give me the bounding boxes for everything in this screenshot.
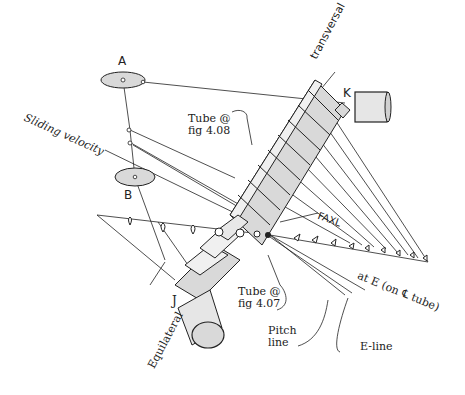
label-k: K <box>343 88 351 99</box>
right-pointers <box>294 234 427 261</box>
tube-408-leader <box>232 110 252 145</box>
label-e-line: E-line <box>360 341 393 352</box>
point-e <box>265 232 271 238</box>
label-j: J <box>172 296 177 307</box>
j-cylinder <box>178 290 224 348</box>
label-tube-407-line1: Tube @ <box>238 286 280 297</box>
e-line-leader <box>337 298 348 352</box>
label-pitch-line2: line <box>268 337 289 348</box>
pitch-line-leader <box>298 300 328 346</box>
label-tube-408-line1: Tube @ <box>188 113 230 124</box>
e-line <box>270 237 352 293</box>
label-a: A <box>118 56 126 67</box>
joint-2 <box>128 141 132 145</box>
gear-geometry-diagram <box>0 0 465 395</box>
disc-b <box>115 168 155 186</box>
k-cylinder <box>355 92 391 122</box>
joint-1 <box>127 128 131 132</box>
label-tube-407-line2: fig 4.07 <box>238 298 280 309</box>
label-tube-408-line2: fig 4.08 <box>188 125 230 136</box>
disc-a <box>101 72 145 88</box>
b-to-j-line <box>135 178 165 260</box>
label-pitch-line1: Pitch <box>268 325 297 336</box>
label-b: B <box>124 190 132 201</box>
